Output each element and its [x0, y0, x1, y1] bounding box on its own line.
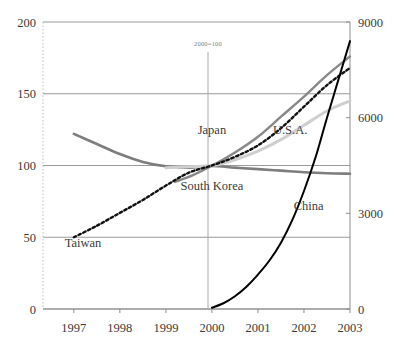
left-tick-label: 200 — [17, 16, 36, 30]
x-tick-label: 2001 — [245, 321, 270, 335]
left-tick-label: 0 — [30, 303, 36, 317]
series-label-taiwan: Taiwan — [65, 236, 102, 250]
x-tick-label: 1998 — [107, 321, 132, 335]
series-label-u-s-a: U.S.A. — [273, 123, 307, 137]
left-tick-label: 50 — [24, 231, 37, 245]
series-label-china: China — [294, 199, 324, 213]
series-label-south-korea: South Korea — [180, 179, 243, 193]
index-line-chart: 050100150200 0300060009000 1997199819992… — [0, 0, 398, 343]
x-tick-label: 1999 — [153, 321, 178, 335]
x-tick-label: 2002 — [291, 321, 316, 335]
x-tick-label: 1997 — [61, 321, 86, 335]
left-tick-label: 150 — [17, 87, 36, 101]
right-tick-label: 9000 — [358, 16, 383, 30]
x-tick-label: 2003 — [338, 321, 363, 335]
x-tick-label: 2000 — [199, 321, 224, 335]
right-tick-label: 3000 — [358, 207, 383, 221]
left-tick-label: 100 — [17, 159, 36, 173]
right-tick-label: 0 — [358, 303, 364, 317]
chart-container: 050100150200 0300060009000 1997199819992… — [0, 0, 398, 343]
right-tick-label: 6000 — [358, 111, 383, 125]
annotation-2000-equals-100: 2000=100 — [194, 40, 222, 47]
series-label-japan: Japan — [198, 123, 227, 137]
